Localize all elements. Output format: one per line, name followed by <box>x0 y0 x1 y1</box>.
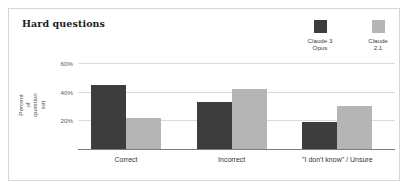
plot-area: 20%40%60% <box>78 63 395 149</box>
legend-item-claude-3-opus[interactable]: Claude 3 Opus <box>298 20 342 52</box>
chart-figure: Hard questions Claude 3 Opus Claude 2.1 … <box>0 0 416 190</box>
y-axis-title-text: Percent of question set <box>17 93 46 116</box>
x-tick-label-0: Correct <box>115 156 138 163</box>
x-axis-line <box>78 149 395 150</box>
x-tick-label-2: "I don't know" / Unsure <box>302 156 373 163</box>
y-tick-label-40: 40% <box>61 88 73 95</box>
y-axis-title: Percent of question set <box>24 72 38 138</box>
y-tick-label-20: 20% <box>61 117 73 124</box>
bar-claude-2-1-group-1[interactable] <box>232 89 267 149</box>
x-tick-label-1: Incorrect <box>218 156 245 163</box>
bar-claude-3-opus-group-0[interactable] <box>91 85 126 150</box>
chart-legend: Claude 3 Opus Claude 2.1 <box>298 20 400 52</box>
chart-title: Hard questions <box>22 18 105 29</box>
legend-label-claude-2-1: Claude 2.1 <box>368 37 388 52</box>
bar-claude-2-1-group-2[interactable] <box>337 106 372 149</box>
legend-swatch-claude-2-1 <box>372 20 385 33</box>
gridline-60: 60% <box>78 63 395 64</box>
legend-item-claude-2-1[interactable]: Claude 2.1 <box>356 20 400 52</box>
legend-swatch-claude-3-opus <box>314 20 327 33</box>
bar-claude-2-1-group-0[interactable] <box>126 118 161 149</box>
bar-claude-3-opus-group-1[interactable] <box>197 102 232 149</box>
bar-claude-3-opus-group-2[interactable] <box>302 122 337 149</box>
y-tick-label-60: 60% <box>61 60 73 67</box>
legend-label-claude-3-opus: Claude 3 Opus <box>308 37 333 52</box>
